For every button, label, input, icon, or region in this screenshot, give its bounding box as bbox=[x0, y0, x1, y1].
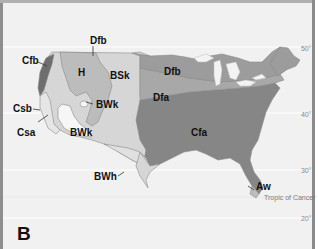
label-aw: Aw bbox=[256, 182, 271, 192]
panel-label: B bbox=[17, 224, 31, 243]
climate-map bbox=[0, 0, 318, 249]
tropic-of-cancer-label: Tropic of Cancer bbox=[264, 194, 315, 201]
latitude-40: 40° bbox=[301, 111, 311, 118]
label-csb: Csb bbox=[13, 104, 32, 114]
label-dfb-midwest: Dfb bbox=[164, 67, 181, 77]
label-csa: Csa bbox=[17, 128, 35, 138]
label-cfb: Cfb bbox=[22, 56, 39, 66]
label-dfb-top: Dfb bbox=[90, 36, 107, 46]
label-h: H bbox=[78, 68, 85, 78]
label-dfa: Dfa bbox=[153, 93, 169, 103]
label-bwk-southwest: BWk bbox=[70, 128, 92, 138]
label-bwh: BWh bbox=[94, 172, 117, 182]
label-bwk-small: BWk bbox=[96, 100, 118, 110]
label-cfa: Cfa bbox=[191, 128, 207, 138]
latitude-30: 30° bbox=[301, 167, 311, 174]
label-bsk: BSk bbox=[110, 71, 129, 81]
latitude-20: 20° bbox=[301, 215, 311, 222]
latitude-50: 50° bbox=[301, 45, 311, 52]
